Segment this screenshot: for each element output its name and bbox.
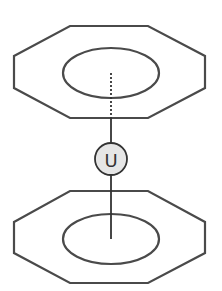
bottom-ring <box>14 191 205 283</box>
top-octagon <box>14 26 205 118</box>
top-ring <box>14 26 205 118</box>
sandwich-complex-diagram: U <box>0 0 222 291</box>
atom-label: U <box>104 150 117 171</box>
bottom-octagon <box>14 191 205 283</box>
center-atom: U <box>95 143 127 175</box>
